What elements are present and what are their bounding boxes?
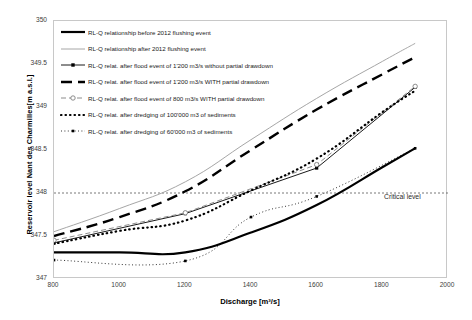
data-point-marker [315, 195, 318, 198]
x-tick-label: 1600 [296, 281, 336, 288]
legend-item-label: RL-Q relat. after flood event of 1'200 m… [88, 62, 273, 69]
y-tick-label: 347.5 [21, 231, 47, 238]
x-tick-label: 1000 [99, 281, 139, 288]
legend-line-swatch [60, 125, 86, 137]
legend-line-swatch [60, 59, 86, 71]
y-tick-label: 348.5 [21, 145, 47, 152]
data-point-marker [250, 216, 253, 219]
chart-root: Reservoir level Nant des Charmilles[m a.… [0, 0, 472, 320]
y-axis-tick-labels: 347347.5348348.5349349.5350 [14, 0, 47, 320]
data-point-marker [54, 259, 55, 262]
legend-item[interactable]: RL-Q relat. after flood event of 1'200 m… [60, 57, 310, 74]
x-tick-label: 1400 [230, 281, 270, 288]
series-line [54, 148, 415, 254]
legend-item-label: RL-Q relat. after flood event of 800 m3/… [88, 95, 264, 102]
y-tick-label: 349 [21, 102, 47, 109]
y-tick-label: 347 [21, 274, 47, 281]
data-point-marker [414, 147, 417, 150]
x-axis-tick-labels: 800100012001400160018002000 [0, 281, 472, 295]
y-tick-label: 350 [21, 16, 47, 23]
x-axis-title: Discharge [m³/s] [53, 297, 447, 306]
legend-line-swatch [60, 76, 86, 88]
legend-item[interactable]: RL-Q relat. after dredging of 100'000 m3… [60, 107, 310, 124]
series-line [54, 147, 416, 265]
legend-item-label: RL-Q relationship before 2012 flushing e… [88, 29, 211, 36]
legend-item[interactable]: RL-Q relat. after flood event of 800 m3/… [60, 90, 310, 107]
y-tick-label: 349.5 [21, 59, 47, 66]
legend-line-swatch [60, 109, 86, 121]
legend-line-swatch [60, 26, 86, 38]
legend-item[interactable]: RL-Q relat. after dredging of 60'000 m3 … [60, 123, 310, 140]
legend-item-label: RL-Q relat. after dredging of 100'000 m3… [88, 111, 236, 118]
legend-item[interactable]: RL-Q relationship after 2012 flushing ev… [60, 41, 310, 58]
legend-item[interactable]: RL-Q relationship before 2012 flushing e… [60, 24, 310, 41]
critical-level-annotation: Critical level [384, 193, 421, 200]
x-tick-label: 2000 [427, 281, 467, 288]
data-point-marker [184, 260, 187, 263]
y-tick-label: 348 [21, 188, 47, 195]
data-point-marker [54, 238, 56, 242]
data-point-marker [413, 84, 417, 88]
legend-line-swatch [60, 92, 86, 104]
data-point-marker [183, 211, 187, 215]
x-tick-label: 800 [33, 281, 73, 288]
x-tick-label: 1800 [361, 281, 401, 288]
legend-line-swatch [60, 43, 86, 55]
legend: RL-Q relationship before 2012 flushing e… [60, 24, 310, 140]
legend-item-label: RL-Q relat. after flood event of 1'200 m… [88, 78, 269, 85]
legend-item-label: RL-Q relat. after dredging of 60'000 m3 … [88, 128, 232, 135]
legend-item[interactable]: RL-Q relat. after flood event of 1'200 m… [60, 74, 310, 91]
legend-item-label: RL-Q relationship after 2012 flushing ev… [88, 45, 206, 52]
x-tick-label: 1200 [164, 281, 204, 288]
data-point-marker [314, 162, 318, 166]
